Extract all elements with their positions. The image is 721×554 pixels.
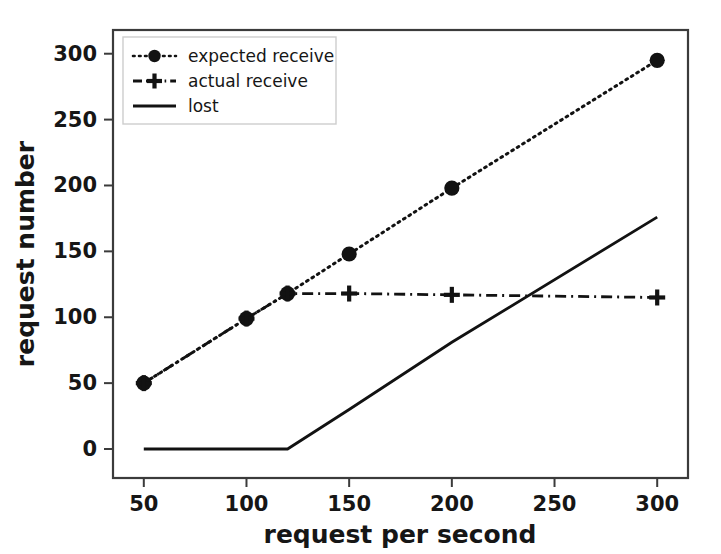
legend-label-lost: lost	[188, 96, 219, 116]
y-tick-label: 0	[82, 437, 97, 461]
x-tick-label: 200	[430, 492, 474, 516]
y-tick-labels: 050100150200250300	[53, 42, 97, 461]
y-tick-label: 100	[53, 305, 97, 329]
y-tick-label: 250	[53, 108, 97, 132]
y-tick-label: 300	[53, 42, 97, 66]
data-point	[650, 53, 665, 68]
y-tick-label: 200	[53, 173, 97, 197]
figure-canvas: 050100150200250300 50100150200250300 req…	[0, 0, 721, 554]
data-point	[342, 246, 357, 261]
y-tick-label: 150	[53, 239, 97, 263]
legend-label-expected-receive: expected receive	[188, 46, 334, 66]
line-chart: 050100150200250300 50100150200250300 req…	[0, 0, 721, 554]
y-tick-marks	[104, 54, 113, 449]
data-point	[444, 181, 459, 196]
y-tick-label: 50	[68, 371, 97, 395]
x-tick-label: 50	[129, 492, 158, 516]
x-tick-marks	[144, 478, 657, 487]
x-tick-label: 150	[327, 492, 371, 516]
legend-label-actual-receive: actual receive	[188, 71, 308, 91]
chart-legend: expected receive actual receive lost	[123, 37, 336, 124]
x-tick-label: 300	[635, 492, 679, 516]
x-tick-label: 100	[225, 492, 269, 516]
x-tick-labels: 50100150200250300	[129, 492, 679, 516]
x-tick-label: 250	[533, 492, 577, 516]
series-path	[144, 294, 657, 384]
y-axis-label: request number	[11, 140, 40, 367]
x-axis-label: request per second	[264, 520, 537, 549]
